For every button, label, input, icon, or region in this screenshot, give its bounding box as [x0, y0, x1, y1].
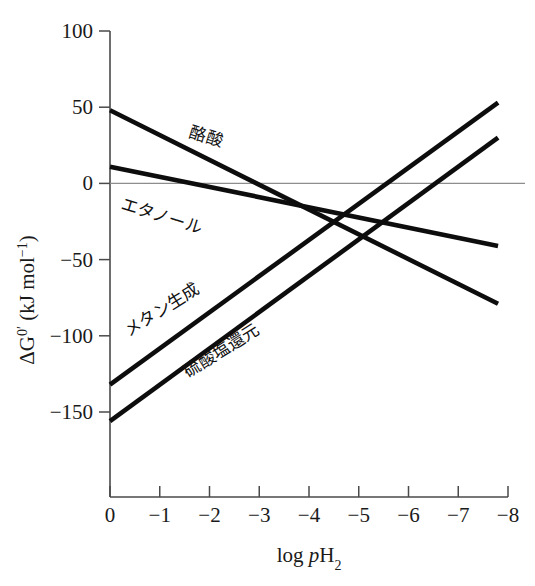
- y-tick-label: 50: [72, 95, 93, 119]
- y-tick-label: −100: [50, 324, 93, 348]
- series-label-group: メタン生成: [120, 278, 203, 340]
- series-label: 酪酸: [187, 122, 225, 151]
- series-label-group: 酪酸: [187, 122, 225, 151]
- svg-text:ΔG0′ (kJ mol−1): ΔG0′ (kJ mol−1): [15, 235, 40, 364]
- x-tick-label: −3: [248, 503, 270, 527]
- x-tick-label: −6: [397, 503, 419, 527]
- y-axis-ticks: 100500−50−100−150: [50, 19, 110, 424]
- thermodynamics-figure: 100500−50−100−150 0−1−2−3−4−5−6−7−8 酪酸エタ…: [0, 0, 535, 586]
- series-label: エタノール: [118, 194, 204, 238]
- x-tick-label: −4: [298, 503, 321, 527]
- x-axis-title: log pH2: [277, 543, 342, 573]
- y-tick-label: −50: [60, 248, 93, 272]
- x-axis-ticks: 0−1−2−3−4−5−6−7−8: [105, 486, 519, 527]
- x-tick-label: −7: [447, 503, 469, 527]
- y-axis-title: ΔG0′ (kJ mol−1): [15, 235, 40, 364]
- y-tick-label: −150: [50, 400, 93, 424]
- series-label: メタン生成: [120, 278, 203, 340]
- x-tick-label: −5: [348, 503, 370, 527]
- y-tick-label: 0: [83, 171, 94, 195]
- x-tick-label: −2: [198, 503, 220, 527]
- series-label-group: エタノール: [118, 194, 204, 238]
- line-chart: 100500−50−100−150 0−1−2−3−4−5−6−7−8 酪酸エタ…: [0, 0, 535, 586]
- x-tick-label: −8: [497, 503, 519, 527]
- series-labels-group: 酪酸エタノールメタン生成硫酸塩還元: [118, 122, 262, 382]
- series-line: [110, 103, 498, 385]
- y-tick-label: 100: [62, 19, 94, 43]
- svg-text:log pH2: log pH2: [277, 543, 342, 573]
- series-label: 硫酸塩還元: [180, 320, 263, 382]
- series-lines-group: [110, 103, 498, 422]
- x-tick-label: 0: [105, 503, 116, 527]
- x-tick-label: −1: [149, 503, 171, 527]
- series-label-group: 硫酸塩還元: [180, 320, 263, 382]
